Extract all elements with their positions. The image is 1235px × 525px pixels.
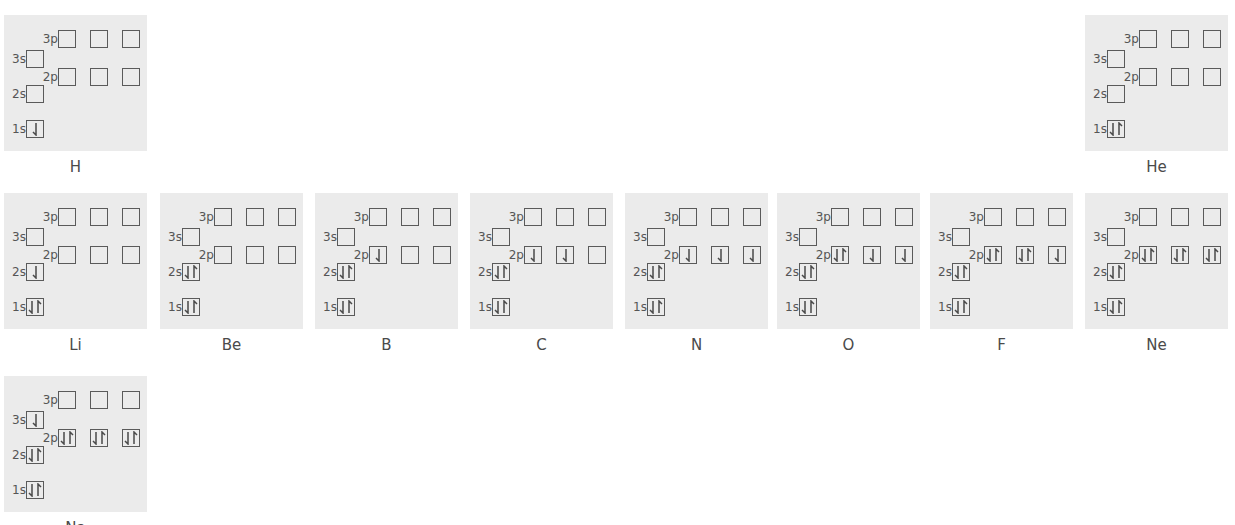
orbital-label-1s: 1s: [4, 483, 26, 497]
spin-down-arrow-icon: [338, 265, 346, 279]
spin-down-arrow-icon: [183, 300, 191, 314]
element-symbol-label: B: [315, 336, 458, 354]
spin-down-arrow-icon: [648, 300, 656, 314]
spin-down-arrow-icon: [1204, 248, 1212, 262]
orbital-label-2p: 2p: [809, 248, 831, 262]
spin-up-arrow-icon: [1116, 265, 1124, 279]
orbital-box-3s: [337, 228, 355, 246]
orbital-box-1s: [492, 298, 510, 316]
orbital-box-2p-2: [1016, 246, 1034, 264]
orbital-box-3p-1: [831, 208, 849, 226]
orbital-box-3p-2: [90, 391, 108, 409]
orbital-box-2p-2: [90, 68, 108, 86]
orbital-label-3p: 3p: [36, 32, 58, 46]
spin-up-arrow-icon: [99, 431, 107, 445]
orbital-box-2p-3: [122, 429, 140, 447]
spin-down-arrow-icon: [1017, 248, 1025, 262]
orbital-box-2s: [799, 263, 817, 281]
orbital-label-1s: 1s: [1085, 300, 1107, 314]
element-cell-li: 3p3s2p2s1sLi: [4, 193, 147, 329]
orbital-panel: 3p3s2p2s1s: [160, 193, 303, 329]
orbital-box-1s: [26, 298, 44, 316]
element-cell-he: 3p3s2p2s1sHe: [1085, 15, 1228, 151]
orbital-box-2s: [492, 263, 510, 281]
orbital-box-3s: [492, 228, 510, 246]
orbital-box-3s: [1107, 50, 1125, 68]
spin-up-arrow-icon: [67, 431, 75, 445]
orbital-label-2s: 2s: [4, 87, 26, 101]
spin-down-arrow-icon: [374, 248, 382, 262]
spin-down-arrow-icon: [1140, 248, 1148, 262]
orbital-label-3p: 3p: [1117, 210, 1139, 224]
spin-down-arrow-icon: [338, 300, 346, 314]
spin-up-arrow-icon: [961, 265, 969, 279]
orbital-box-1s: [799, 298, 817, 316]
orbital-box-2s: [1107, 85, 1125, 103]
orbital-panel: 3p3s2p2s1s: [1085, 15, 1228, 151]
spin-up-arrow-icon: [1212, 248, 1220, 262]
element-cell-c: 3p3s2p2s1sC: [470, 193, 613, 329]
spin-up-arrow-icon: [1148, 248, 1156, 262]
orbital-box-2p-2: [1171, 68, 1189, 86]
orbital-box-3s: [952, 228, 970, 246]
element-cell-be: 3p3s2p2s1sBe: [160, 193, 303, 329]
orbital-label-3s: 3s: [1085, 230, 1107, 244]
orbital-label-3s: 3s: [1085, 52, 1107, 66]
spin-down-arrow-icon: [900, 248, 908, 262]
spin-down-arrow-icon: [1053, 248, 1061, 262]
orbital-box-2s: [337, 263, 355, 281]
orbital-box-3p-1: [1139, 208, 1157, 226]
orbital-box-1s: [337, 298, 355, 316]
orbital-label-1s: 1s: [777, 300, 799, 314]
orbital-box-2p-3: [433, 246, 451, 264]
spin-up-arrow-icon: [840, 248, 848, 262]
element-symbol-label: He: [1085, 158, 1228, 176]
spin-up-arrow-icon: [1116, 122, 1124, 136]
orbital-label-1s: 1s: [930, 300, 952, 314]
element-cell-f: 3p3s2p2s1sF: [930, 193, 1073, 329]
orbital-box-3p-3: [122, 30, 140, 48]
orbital-box-2p-1: [524, 246, 542, 264]
orbital-box-3p-1: [984, 208, 1002, 226]
orbital-label-2p: 2p: [36, 431, 58, 445]
orbital-panel: 3p3s2p2s1s: [625, 193, 768, 329]
orbital-box-3p-1: [1139, 30, 1157, 48]
element-symbol-label: Be: [160, 336, 303, 354]
orbital-box-2p-1: [58, 246, 76, 264]
orbital-box-3p-2: [556, 208, 574, 226]
spin-down-arrow-icon: [648, 265, 656, 279]
orbital-label-2s: 2s: [625, 265, 647, 279]
orbital-label-3s: 3s: [777, 230, 799, 244]
orbital-box-2p-3: [122, 246, 140, 264]
orbital-label-2s: 2s: [470, 265, 492, 279]
orbital-box-3p-3: [122, 391, 140, 409]
orbital-box-2s: [182, 263, 200, 281]
spin-down-arrow-icon: [31, 265, 39, 279]
spin-up-arrow-icon: [961, 300, 969, 314]
spin-up-arrow-icon: [993, 248, 1001, 262]
spin-up-arrow-icon: [656, 265, 664, 279]
orbital-label-3p: 3p: [657, 210, 679, 224]
element-cell-h: 3p3s2p2s1sH: [4, 15, 147, 151]
spin-up-arrow-icon: [808, 300, 816, 314]
element-symbol-label: Ne: [1085, 336, 1228, 354]
spin-up-arrow-icon: [346, 265, 354, 279]
orbital-box-2p-2: [90, 429, 108, 447]
element-cell-na: 3p3s2p2s1sNa: [4, 376, 147, 512]
spin-down-arrow-icon: [123, 431, 131, 445]
orbital-box-1s: [26, 120, 44, 138]
orbital-box-2p-1: [58, 68, 76, 86]
orbital-box-2p-2: [246, 246, 264, 264]
spin-down-arrow-icon: [561, 248, 569, 262]
spin-down-arrow-icon: [748, 248, 756, 262]
orbital-label-3p: 3p: [36, 393, 58, 407]
orbital-box-3p-2: [863, 208, 881, 226]
orbital-box-2p-2: [711, 246, 729, 264]
spin-up-arrow-icon: [501, 265, 509, 279]
spin-down-arrow-icon: [493, 265, 501, 279]
orbital-box-2p-1: [831, 246, 849, 264]
orbital-label-3p: 3p: [192, 210, 214, 224]
spin-down-arrow-icon: [800, 300, 808, 314]
orbital-box-2p-3: [278, 246, 296, 264]
orbital-label-2s: 2s: [777, 265, 799, 279]
